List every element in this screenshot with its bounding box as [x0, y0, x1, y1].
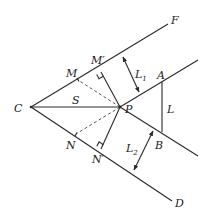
- label-D: D: [174, 197, 184, 210]
- label-L2: L2: [125, 142, 138, 157]
- label-C: C: [14, 102, 23, 115]
- label-P: P: [124, 103, 133, 116]
- point-C: [30, 106, 33, 109]
- label-B: B: [154, 139, 163, 152]
- tick-N: [75, 133, 77, 137]
- label-L1: L1: [134, 68, 147, 83]
- ray-P-upper: [120, 60, 198, 107]
- geometry-diagram: C S P F D M M′ N N′ A B L L1 L2: [0, 0, 211, 222]
- label-M: M: [65, 67, 78, 80]
- label-M-prime: M′: [90, 54, 105, 67]
- label-F: F: [170, 14, 179, 27]
- label-L: L: [166, 103, 174, 116]
- dashed-PM: [78, 80, 120, 107]
- label-A: A: [156, 69, 165, 82]
- label-N: N: [65, 139, 76, 152]
- label-S: S: [72, 94, 80, 107]
- perpendicular-PM-prime: [101, 72, 120, 107]
- label-N-prime: N′: [91, 153, 105, 166]
- point-P: [119, 106, 122, 109]
